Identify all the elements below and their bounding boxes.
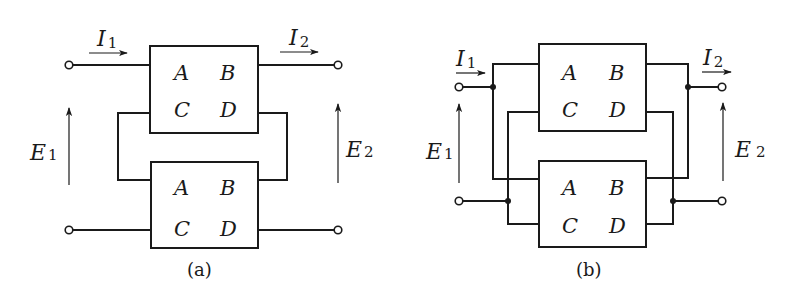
param-d: D (219, 98, 237, 122)
left-series-link (118, 113, 151, 180)
voltage-in-label: E1 (425, 139, 454, 164)
bottom-two-port-box (539, 161, 646, 247)
param-a: A (172, 176, 189, 200)
junction-dot (685, 84, 691, 90)
panel-caption: (b) (576, 259, 602, 280)
terminal-in-bottom (455, 197, 463, 205)
param-c: C (174, 217, 190, 241)
param-d: D (608, 214, 626, 238)
junction-dot (670, 198, 676, 204)
voltage-out-label: E2 (734, 137, 766, 162)
param-d: D (608, 98, 626, 122)
terminal-out-bottom (718, 197, 726, 205)
panel-b: A B C D A B C D I1 I2 E1 E2 (b) (425, 44, 766, 280)
terminal-in-top (455, 83, 463, 91)
current-out-label: I2 (702, 45, 723, 71)
param-b: B (219, 176, 235, 200)
param-c: C (562, 214, 578, 238)
panel-a: A B C D A B C D I1 I2 E1 E2 (a) (29, 25, 374, 280)
param-a: A (560, 176, 577, 200)
two-port-diagram: A B C D A B C D I1 I2 E1 E2 (a) (0, 0, 793, 296)
voltage-in-label: E1 (29, 140, 58, 165)
param-d: D (219, 217, 237, 241)
param-c: C (562, 98, 578, 122)
bottom-two-port-box (151, 162, 258, 248)
right-parallel-link-d (646, 112, 673, 224)
right-series-link (258, 113, 287, 180)
terminal-out-bottom (334, 226, 342, 234)
param-b: B (219, 61, 235, 85)
param-b: B (608, 176, 624, 200)
param-a: A (172, 61, 189, 85)
panel-caption: (a) (187, 259, 212, 280)
right-parallel-link-b (646, 64, 688, 178)
param-a: A (560, 61, 577, 85)
top-two-port-box (150, 46, 258, 133)
terminal-in-bottom (65, 226, 73, 234)
terminal-out-top (718, 83, 726, 91)
left-parallel-link-c (508, 112, 539, 224)
top-two-port-box (539, 44, 646, 131)
voltage-out-label: E2 (345, 137, 374, 162)
terminal-in-top (65, 61, 73, 69)
junction-dot (505, 198, 511, 204)
current-out-label: I2 (288, 25, 309, 51)
junction-dot (490, 84, 496, 90)
param-c: C (174, 98, 190, 122)
left-parallel-link-a (493, 64, 539, 179)
current-in-label: I1 (455, 46, 476, 72)
terminal-out-top (334, 61, 342, 69)
current-in-label: I1 (96, 26, 117, 52)
param-b: B (608, 61, 624, 85)
